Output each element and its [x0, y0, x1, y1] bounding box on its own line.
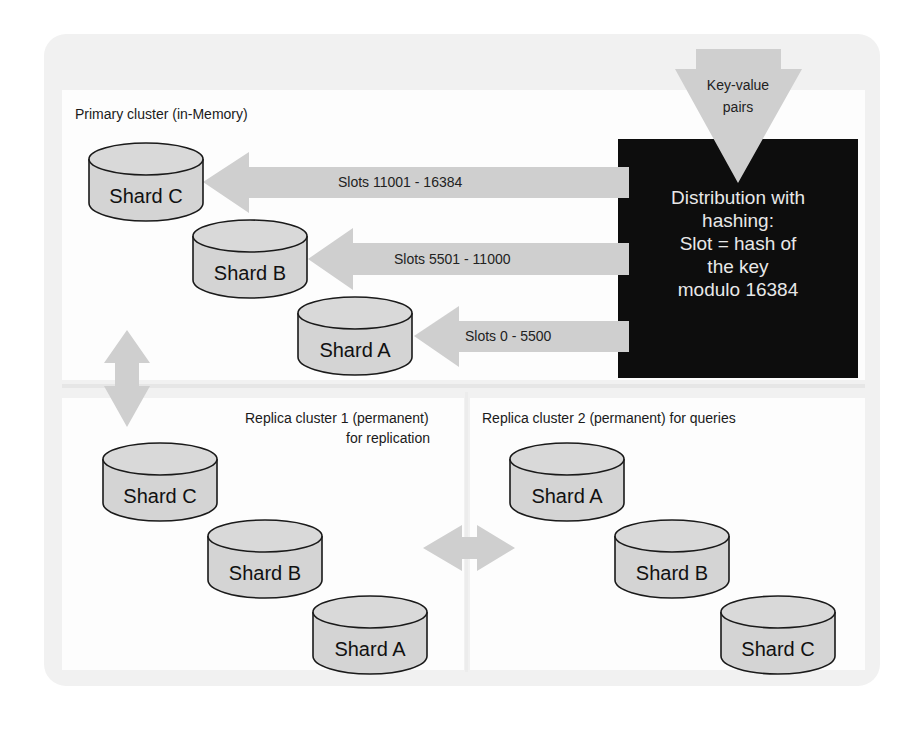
primary-shard-c-cylinder-icon	[89, 143, 203, 221]
replica1-shard-c-label: Shard C	[105, 485, 215, 507]
replica1-shard-c-cylinder-icon	[103, 443, 217, 521]
key-value-label: Key-value pairs	[693, 74, 783, 118]
replica2-shard-a-cylinder-icon	[510, 443, 624, 521]
replica1-shard-b-cylinder-icon	[208, 520, 322, 598]
slot-range-shard-a: Slots 0 - 5500	[465, 328, 551, 345]
hash-text-line: Distribution with	[618, 186, 858, 209]
hash-text-line: the key	[618, 255, 858, 278]
key-value-label-line1: Key-value	[693, 74, 783, 96]
replica2-shard-b-cylinder-icon	[615, 520, 729, 598]
primary-shard-a-label: Shard A	[300, 339, 410, 361]
replica2-shard-c-label: Shard C	[723, 638, 833, 660]
replica-cluster-1-subtitle: for replication	[346, 430, 430, 447]
replica-to-replica-arrow-icon	[423, 525, 515, 571]
replica1-shard-b-label: Shard B	[210, 562, 320, 584]
replica-cluster-2-title: Replica cluster 2 (permanent) for querie…	[482, 410, 736, 427]
replica1-shard-a-cylinder-icon	[313, 596, 427, 674]
key-value-label-line2: pairs	[693, 96, 783, 118]
diagram-canvas: Key-value pairs Distribution with hashin…	[0, 0, 923, 739]
primary-shard-c-label: Shard C	[91, 185, 201, 207]
hash-text-line: hashing:	[618, 209, 858, 232]
slot-range-shard-b: Slots 5501 - 11000	[394, 251, 511, 268]
primary-shard-a-cylinder-icon	[298, 297, 412, 375]
replica-cluster-1-title: Replica cluster 1 (permanent)	[245, 410, 429, 427]
primary-shard-b-label: Shard B	[195, 262, 305, 284]
hash-text-line: Slot = hash of	[618, 232, 858, 255]
replica1-shard-a-label: Shard A	[315, 638, 425, 660]
replica2-shard-a-label: Shard A	[512, 485, 622, 507]
primary-shard-b-cylinder-icon	[193, 220, 307, 298]
replica2-shard-b-label: Shard B	[617, 562, 727, 584]
primary-cluster-title: Primary cluster (in-Memory)	[75, 106, 248, 123]
hash-distribution-text: Distribution with hashing: Slot = hash o…	[618, 186, 858, 301]
primary-replica-sync-arrow-icon	[104, 330, 150, 427]
slot-range-shard-c: Slots 11001 - 16384	[338, 174, 462, 191]
replica2-shard-c-cylinder-icon	[721, 596, 835, 674]
hash-text-line: modulo 16384	[618, 278, 858, 301]
